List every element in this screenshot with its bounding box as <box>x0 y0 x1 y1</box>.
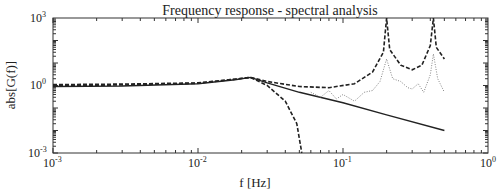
series-2 <box>53 77 302 153</box>
svg-text:10-2: 10-2 <box>188 155 207 170</box>
svg-text:103: 103 <box>30 10 46 25</box>
series-3 <box>311 54 445 101</box>
x-axis-label: f [Hz] <box>239 175 270 190</box>
svg-text:100: 100 <box>30 77 46 92</box>
svg-text:10-1: 10-1 <box>333 155 352 170</box>
svg-text:100: 100 <box>480 155 496 170</box>
x-tick-labels: 10-3 10-2 10-1 100 <box>43 155 496 170</box>
svg-text:10-3: 10-3 <box>43 155 62 170</box>
chart: Frequency response - spectral analysis 1… <box>0 0 502 195</box>
series-group <box>53 18 444 153</box>
series-0 <box>53 77 444 130</box>
y-tick-labels: 103 100 10-3 <box>28 10 47 160</box>
chart-title: Frequency response - spectral analysis <box>162 3 377 18</box>
y-axis-label: abs[G(f)] <box>3 61 18 109</box>
